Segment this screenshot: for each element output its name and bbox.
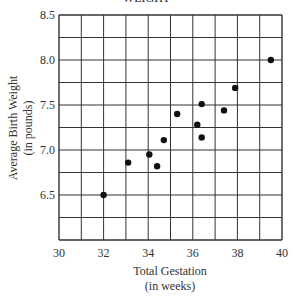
y-tick-label: 8.5 xyxy=(40,8,55,22)
data-point xyxy=(100,192,106,198)
data-point xyxy=(194,122,200,128)
data-point xyxy=(125,159,131,165)
y-axis-label-line2: (in pounds) xyxy=(21,101,35,156)
x-axis-label-line2: (in weeks) xyxy=(145,279,195,293)
y-tick-label: 7.5 xyxy=(40,98,55,112)
y-axis-label-line1: Average Birth Weight xyxy=(6,75,20,180)
x-tick-label: 40 xyxy=(276,246,288,260)
x-axis-label-line1: Total Gestation xyxy=(133,264,206,278)
y-tick-label: 8.0 xyxy=(40,53,55,67)
x-tick-label: 34 xyxy=(142,246,154,260)
scatter-plot: 303234363840 8.58.07.57.06.5 Total Gesta… xyxy=(0,0,293,296)
x-axis-ticks: 303234363840 xyxy=(53,246,288,260)
data-point xyxy=(199,134,205,140)
y-axis-ticks: 8.58.07.57.06.5 xyxy=(40,8,55,202)
data-point xyxy=(199,101,205,107)
data-point xyxy=(154,163,160,169)
x-tick-label: 32 xyxy=(98,246,110,260)
x-tick-label: 38 xyxy=(231,246,243,260)
x-tick-label: 30 xyxy=(53,246,65,260)
data-point xyxy=(221,107,227,113)
data-point xyxy=(232,85,238,91)
plot-grid xyxy=(59,15,282,240)
x-tick-label: 36 xyxy=(187,246,199,260)
data-point xyxy=(268,57,274,63)
y-tick-label: 6.5 xyxy=(40,188,55,202)
y-tick-label: 7.0 xyxy=(40,143,55,157)
data-point xyxy=(161,137,167,143)
data-point xyxy=(174,111,180,117)
data-point xyxy=(146,151,152,157)
